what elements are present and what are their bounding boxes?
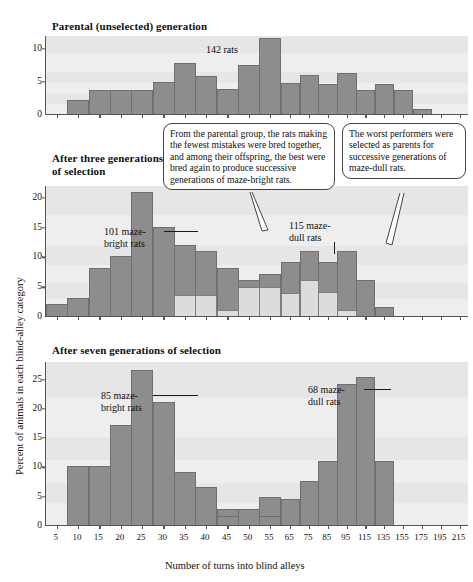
- x-tick-mark: [121, 114, 122, 118]
- bar: [356, 280, 375, 316]
- x-tick-label: 215: [452, 533, 466, 542]
- bar: [195, 487, 217, 525]
- callout-maze-dull: The worst performers were selected as pa…: [342, 123, 466, 179]
- x-tick-mark: [206, 114, 207, 118]
- y-tick-mark: [42, 257, 46, 258]
- x-tick-label: 10: [73, 533, 82, 542]
- x-tick-mark: [270, 316, 271, 320]
- x-tick-mark: [227, 114, 228, 118]
- x-tick-mark: [57, 316, 58, 320]
- x-tick-mark: [403, 525, 404, 529]
- bar: [356, 90, 375, 114]
- y-tick-label: 0: [37, 110, 42, 120]
- x-tick-mark: [309, 525, 310, 529]
- x-tick-mark: [328, 316, 329, 320]
- x-tick-mark: [78, 114, 79, 118]
- x-tick-mark: [403, 316, 404, 320]
- bar: [318, 84, 337, 114]
- y-tick-mark: [42, 81, 46, 82]
- panel-title-1: After three generations of selection: [52, 152, 163, 178]
- x-tick-label: 15: [94, 533, 103, 542]
- bar: [238, 65, 260, 114]
- x-tick-label: 85: [322, 533, 331, 542]
- x-tick-mark: [309, 316, 310, 320]
- x-tick-label: 45: [222, 533, 231, 542]
- x-tick-mark: [142, 316, 143, 320]
- x-tick-label: 135: [377, 533, 391, 542]
- x-tick-mark: [163, 316, 164, 320]
- x-tick-mark: [57, 114, 58, 118]
- chart-annotation: 142 rats: [206, 44, 238, 56]
- bar: [153, 82, 175, 114]
- y-tick-mark: [42, 408, 46, 409]
- x-tick-mark: [185, 316, 186, 320]
- bar: [259, 287, 281, 316]
- y-tick-mark: [42, 287, 46, 288]
- bar: [281, 499, 300, 525]
- bar: [174, 472, 196, 525]
- x-tick-mark: [328, 114, 329, 118]
- bar: [375, 307, 394, 316]
- maze-selection-figure: Percent of animals in each blind-alley c…: [0, 0, 473, 582]
- bar: [131, 90, 153, 114]
- x-tick-mark: [460, 114, 461, 118]
- y-tick-label: 15: [33, 433, 43, 443]
- bar: [300, 481, 319, 525]
- x-tick-mark: [270, 114, 271, 118]
- x-tick-mark: [365, 114, 366, 118]
- bar: [259, 516, 281, 525]
- x-tick-label: 55: [265, 533, 274, 542]
- bar: [89, 90, 111, 114]
- bar: [238, 509, 260, 525]
- x-tick-mark: [460, 316, 461, 320]
- y-tick-label: 0: [37, 521, 42, 531]
- y-tick-mark: [42, 496, 46, 497]
- x-tick-mark: [422, 316, 423, 320]
- y-axis-title: Percent of animals in each blind-alley c…: [14, 277, 25, 475]
- bar: [281, 293, 300, 316]
- annotation-leader-line: [153, 395, 198, 396]
- x-tick-label: 5: [53, 533, 58, 542]
- x-tick-mark: [422, 114, 423, 118]
- x-tick-mark: [249, 114, 250, 118]
- bar: [394, 90, 413, 114]
- bar: [300, 280, 319, 316]
- x-tick-mark: [185, 525, 186, 529]
- bar: [174, 63, 196, 114]
- bar: [337, 73, 356, 114]
- y-tick-mark: [42, 437, 46, 438]
- bar: [67, 100, 89, 114]
- y-tick-mark: [42, 197, 46, 198]
- chart-annotation: 115 maze- dull rats: [289, 220, 331, 243]
- x-tick-label: 75: [304, 533, 313, 542]
- x-tick-mark: [365, 316, 366, 320]
- x-tick-label: 40: [201, 533, 210, 542]
- bar: [300, 75, 319, 115]
- x-tick-label: 195: [433, 533, 447, 542]
- x-tick-mark: [441, 114, 442, 118]
- x-tick-mark: [441, 525, 442, 529]
- panel-title-0: Parental (unselected) generation: [52, 20, 207, 33]
- x-tick-mark: [163, 114, 164, 118]
- bar: [131, 192, 153, 316]
- bar: [238, 287, 260, 316]
- plot-area-2: 85 maze- bright rats68 maze- dull rats05…: [45, 362, 468, 526]
- bar: [174, 295, 196, 316]
- bar: [110, 256, 132, 316]
- bar: [217, 89, 239, 114]
- x-tick-label: 115: [358, 533, 371, 542]
- x-tick-label: 65: [285, 533, 294, 542]
- x-tick-mark: [270, 525, 271, 529]
- bar: [153, 402, 175, 525]
- x-tick-mark: [290, 525, 291, 529]
- y-tick-label: 10: [33, 44, 43, 54]
- bar: [318, 292, 337, 316]
- annotation-leader-line: [164, 231, 198, 232]
- y-tick-mark: [42, 227, 46, 228]
- y-tick-label: 10: [33, 463, 43, 473]
- bar: [67, 466, 89, 525]
- x-tick-label: 30: [158, 533, 167, 542]
- bar: [356, 377, 375, 525]
- x-tick-mark: [309, 114, 310, 118]
- x-tick-label: 25: [137, 533, 146, 542]
